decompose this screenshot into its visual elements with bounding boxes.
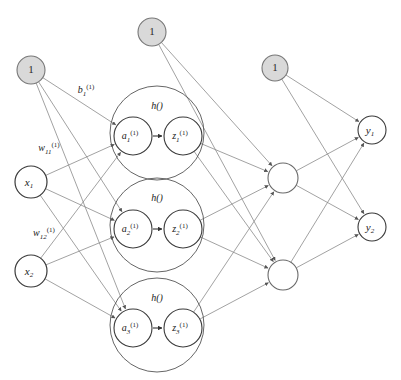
edge-h3-post-to-m1: [194, 192, 274, 312]
edge-bias-output-to-y1: [286, 75, 359, 122]
activation-function-label-h1: h(): [151, 100, 163, 112]
edge-h3-post-to-m2: [200, 283, 269, 319]
edge-x1-to-h1-pre: [46, 144, 115, 175]
edge-m1-to-y1: [296, 137, 358, 171]
edge-h1-post-to-m1: [201, 143, 268, 171]
middle-node-circle-m1[interactable]: [268, 163, 298, 193]
nodes-layer: [15, 18, 386, 347]
edge-x1-to-h3-pre: [40, 195, 121, 311]
edge-bias-output-to-y2: [282, 79, 364, 214]
bias-node-label-bias-hidden: 1: [149, 25, 155, 37]
bias-node-label-bias-input: 1: [28, 63, 34, 75]
network-canvas: 111x1x2a1(1)z1(1)h()a2(1)z2(1)h()a3(1)z3…: [0, 0, 401, 380]
edge-m2-to-y1: [291, 143, 364, 262]
edge-label-bias-weight-1: b1(1): [78, 83, 95, 98]
middle-node-m2[interactable]: [268, 260, 298, 290]
edge-h2-post-to-m2: [200, 237, 268, 268]
edge-label-weight-12: w12(1): [33, 226, 56, 241]
labels-layer: 111x1x2a1(1)z1(1)h()a2(1)z2(1)h()a3(1)z3…: [24, 25, 375, 336]
activation-function-label-h3: h(): [151, 292, 163, 304]
edge-x2-to-h1-pre: [41, 152, 121, 258]
middle-node-circle-m2[interactable]: [268, 260, 298, 290]
bias-node-label-bias-output: 1: [272, 61, 278, 73]
middle-node-m1[interactable]: [268, 163, 298, 193]
edge-label-weight-11: w11(1): [38, 141, 60, 156]
edge-x2-to-h2-pre: [46, 237, 114, 265]
edge-h1-post-to-m2: [194, 151, 273, 261]
neural-network-diagram: 111x1x2a1(1)z1(1)h()a2(1)z2(1)h()a3(1)z3…: [0, 0, 401, 380]
edge-x2-to-h3-pre: [45, 279, 115, 318]
activation-function-label-h2: h(): [151, 192, 163, 204]
edge-m2-to-y2: [296, 234, 358, 268]
